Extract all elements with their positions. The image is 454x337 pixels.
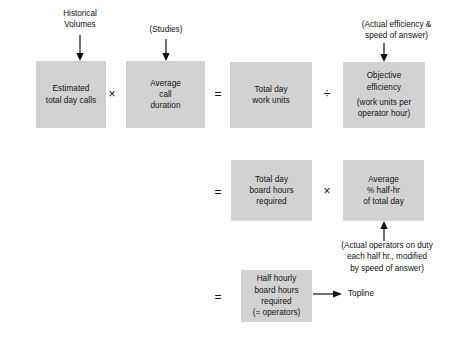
annotation-studies: (Studies) [126, 24, 206, 35]
arrow-actual-efficiency-to-objective-efficiency [377, 43, 391, 63]
operator-equals-middle: = [211, 186, 225, 198]
arrow-studies-to-average-call-duration [159, 39, 173, 62]
box-total-day-work-units-line-1: Total day [254, 84, 287, 95]
box-half-hourly-board-hours-line-3: required [261, 296, 291, 307]
box-average-pct-half-hr-line-3: of total day [363, 196, 404, 207]
annotation-actual-efficiency-line-1: (Actual efficiency & [339, 19, 454, 30]
box-estimated-total-day-calls-line-1: Estimated [53, 83, 90, 94]
box-average-call-duration: Average call duration [126, 61, 205, 128]
box-total-day-board-hours-required: Total day board hours required [231, 160, 312, 221]
box-objective-efficiency-line-2: efficiency [367, 82, 401, 93]
annotation-historical-volumes-line-1: Historical [40, 8, 120, 19]
output-label-topline: Topline [348, 288, 428, 299]
arrow-half-hourly-board-hours-to-topline [313, 288, 343, 300]
box-estimated-total-day-calls-line-2: total day calls [46, 95, 96, 106]
box-objective-efficiency: Objective efficiency (work units per ope… [343, 62, 425, 128]
annotation-actual-operators: (Actual operators on duty each half hr.,… [320, 240, 454, 274]
box-average-pct-half-hr-line-2: % half-hr [367, 185, 400, 196]
annotation-studies-line-1: (Studies) [126, 24, 206, 35]
arrow-actual-operators-to-average-pct-half-hr [377, 221, 391, 241]
box-half-hourly-board-hours-required: Half hourly board hours required (= oper… [241, 270, 312, 322]
annotation-actual-operators-line-3: by speed of answer) [320, 263, 454, 274]
box-average-call-duration-line-1: Average [150, 78, 181, 89]
operator-equals-bottom: = [211, 291, 225, 303]
operator-divide-top: ÷ [320, 88, 334, 100]
box-total-day-work-units-line-2: work units [252, 95, 289, 106]
box-objective-efficiency-sub-line-1: (work units per [357, 97, 411, 108]
output-label-topline-text: Topline [348, 288, 428, 299]
annotation-actual-efficiency-line-2: speed of answer) [339, 30, 454, 41]
operator-multiply-middle: × [320, 185, 334, 197]
box-half-hourly-board-hours-line-4: (= operators) [253, 307, 301, 318]
box-total-day-board-hours-required-line-1: Total day [255, 174, 288, 185]
box-average-call-duration-line-3: duration [151, 100, 181, 111]
annotation-actual-operators-line-2: each half hr., modified [320, 251, 454, 262]
arrow-historical-volumes-to-estimated-calls [73, 35, 87, 62]
box-objective-efficiency-sub-line-2: operator hour) [358, 108, 411, 119]
box-average-pct-half-hr-line-1: Average [368, 174, 399, 185]
box-objective-efficiency-line-1: Objective [367, 70, 402, 81]
annotation-historical-volumes: Historical Volumes [40, 8, 120, 31]
box-average-call-duration-line-2: call [159, 89, 172, 100]
operator-equals-top: = [211, 88, 225, 100]
annotation-actual-operators-line-1: (Actual operators on duty [320, 240, 454, 251]
box-total-day-work-units: Total day work units [230, 62, 312, 128]
box-estimated-total-day-calls: Estimated total day calls [36, 61, 106, 128]
annotation-historical-volumes-line-2: Volumes [40, 19, 120, 30]
operator-multiply-top: × [105, 88, 119, 100]
flow-diagram: Historical Volumes Estimated total day c… [0, 0, 454, 337]
box-half-hourly-board-hours-line-2: board hours [254, 285, 298, 296]
annotation-actual-efficiency: (Actual efficiency & speed of answer) [339, 19, 454, 42]
box-total-day-board-hours-required-line-3: required [256, 196, 286, 207]
box-half-hourly-board-hours-line-1: Half hourly [257, 273, 297, 284]
box-average-pct-half-hr-of-total-day: Average % half-hr of total day [343, 160, 424, 221]
box-total-day-board-hours-required-line-2: board hours [249, 185, 293, 196]
